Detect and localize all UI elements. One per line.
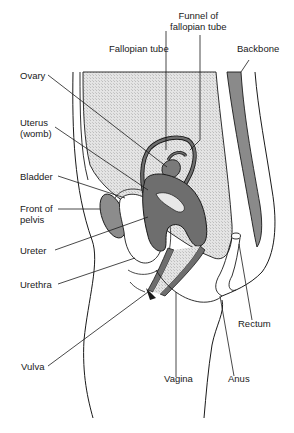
label-anus: Anus [228,373,250,384]
label-vagina: Vagina [164,373,193,384]
label-funnel-of-fallopian-tube: Funnel of fallopian tube [170,10,227,32]
label-bladder: Bladder [20,171,53,182]
label-backbone: Backbone [237,43,279,54]
buttock-outline [204,300,223,418]
label-ovary: Ovary [20,70,45,81]
label-front-of-pelvis: Front of pelvis [20,203,53,225]
label-rectum: Rectum [238,318,271,329]
label-ureter: Ureter [20,245,46,256]
label-uterus: Uterus (womb) [20,117,52,139]
backbone [227,72,262,247]
label-urethra: Urethra [20,279,52,290]
label-vulva: Vulva [21,361,44,372]
label-fallopian-tube: Fallopian tube [109,43,169,54]
